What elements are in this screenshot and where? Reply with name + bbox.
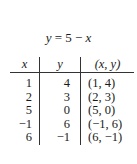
header-pair: (x, y) — [81, 57, 134, 72]
cell-x: 2 — [10, 91, 40, 105]
cell-pair: (5, 0) — [81, 104, 134, 118]
table-row: −1 6 (−1, 6) — [10, 118, 134, 132]
table-header-row: x y (x, y) — [10, 57, 134, 72]
header-x: x — [10, 57, 40, 72]
cell-pair: (−1, 6) — [81, 118, 134, 132]
table-row: 2 3 (2, 3) — [10, 91, 134, 105]
values-table: x y (x, y) 1 4 (1, 4) 2 3 (2, 3) 5 0 (5,… — [10, 57, 134, 145]
cell-y: 3 — [40, 91, 81, 105]
header-y: y — [40, 57, 81, 72]
cell-x: −1 — [10, 118, 40, 132]
equation-title: y = 5 − x — [0, 31, 137, 45]
cell-pair: (1, 4) — [81, 77, 134, 91]
cell-x: 5 — [10, 104, 40, 118]
cell-y: 6 — [40, 118, 81, 132]
cell-pair: (6, −1) — [81, 131, 134, 145]
table-row: 6 −1 (6, −1) — [10, 131, 134, 145]
table-row: 5 0 (5, 0) — [10, 104, 134, 118]
cell-y: 4 — [40, 77, 81, 91]
cell-x: 1 — [10, 77, 40, 91]
cell-y: 0 — [40, 104, 81, 118]
cell-x: 6 — [10, 131, 40, 145]
cell-y: −1 — [40, 131, 81, 145]
equation-rhs: x — [86, 30, 92, 45]
equation-operator: = 5 − — [51, 30, 85, 45]
table-row: 1 4 (1, 4) — [10, 77, 134, 91]
cell-pair: (2, 3) — [81, 91, 134, 105]
